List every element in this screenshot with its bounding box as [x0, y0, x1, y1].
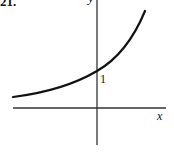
- graph-svg: [0, 0, 174, 153]
- graph-figure: 21. y 1 x: [0, 0, 174, 153]
- y-intercept-label: 1: [100, 73, 106, 85]
- problem-number: 21.: [0, 0, 16, 8]
- x-axis-label: x: [157, 110, 162, 122]
- exponential-curve: [13, 11, 145, 97]
- y-axis-label: y: [88, 0, 94, 4]
